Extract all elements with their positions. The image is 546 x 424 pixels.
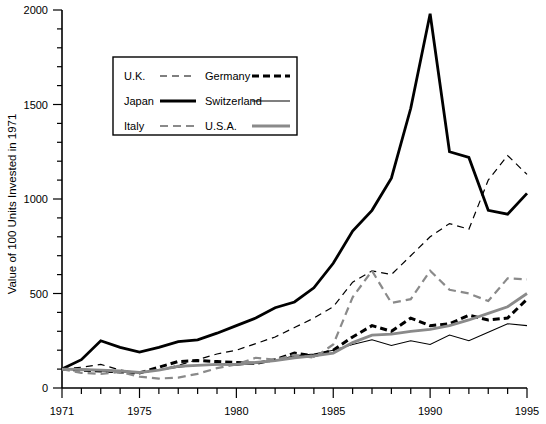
- y-axis-title-group: Value of 100 Units Invested in 1971: [6, 114, 18, 295]
- y-axis-ticks: [53, 10, 62, 388]
- legend-label-uk: U.K.: [124, 70, 145, 82]
- series-line-switzerland: [62, 324, 527, 373]
- x-tick-label: 1995: [515, 405, 539, 417]
- x-axis-ticks: [62, 388, 527, 398]
- series-line-usa: [62, 294, 527, 373]
- x-tick-label: 1975: [127, 405, 151, 417]
- line-chart: Value of 100 Units Invested in 1971 0500…: [0, 0, 546, 424]
- chart-legend: U.K.GermanyJapanSwitzerlandItalyU.S.A.: [113, 57, 297, 135]
- x-tick-label: 1980: [224, 405, 248, 417]
- chart-canvas: Value of 100 Units Invested in 1971 0500…: [0, 0, 546, 424]
- y-axis-title: Value of 100 Units Invested in 1971: [6, 114, 18, 295]
- x-tick-label: 1985: [321, 405, 345, 417]
- y-axis-tick-labels: 0500100015002000: [24, 4, 48, 394]
- legend-label-japan: Japan: [124, 95, 154, 107]
- y-tick-label: 500: [30, 288, 48, 300]
- y-tick-label: 2000: [24, 4, 48, 16]
- y-tick-label: 1000: [24, 193, 48, 205]
- series-line-uk: [62, 156, 527, 373]
- x-axis-tick-labels: 197119751980198519901995: [50, 405, 539, 417]
- series-line-germany: [62, 299, 527, 373]
- x-tick-label: 1971: [50, 405, 74, 417]
- legend-label-usa: U.S.A.: [205, 120, 237, 132]
- legend-label-germany: Germany: [205, 70, 251, 82]
- legend-label-italy: Italy: [124, 120, 145, 132]
- x-tick-label: 1990: [418, 405, 442, 417]
- y-tick-label: 0: [42, 382, 48, 394]
- y-tick-label: 1500: [24, 99, 48, 111]
